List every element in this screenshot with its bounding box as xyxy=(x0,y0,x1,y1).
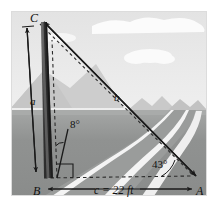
side-label-b: b xyxy=(114,91,120,103)
vertex-label-B: B xyxy=(33,184,41,198)
vertex-label-A: A xyxy=(195,184,204,198)
diagram-canvas: C B A a b c = 22 ft 8° 43° xyxy=(0,0,217,205)
vertex-label-C: C xyxy=(30,11,39,25)
side-label-c: c = 22 ft xyxy=(94,184,134,197)
scene xyxy=(11,11,207,196)
angle-label-8: 8° xyxy=(70,118,80,130)
cloud-icon xyxy=(153,54,175,64)
angle-label-43: 43° xyxy=(152,158,167,170)
side-label-a: a xyxy=(30,95,36,107)
geometry-figure: C B A a b c = 22 ft 8° 43° xyxy=(0,0,217,205)
cloud-icon xyxy=(124,52,148,64)
